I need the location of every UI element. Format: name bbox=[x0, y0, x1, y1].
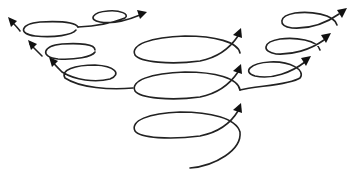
arrowhead-icon bbox=[233, 103, 242, 113]
arrow-left-2 bbox=[28, 40, 95, 59]
arrowhead-icon bbox=[137, 10, 147, 19]
arrow-left-3 bbox=[49, 57, 133, 89]
arrow-left-1 bbox=[8, 17, 78, 37]
arrow-right-1 bbox=[282, 8, 347, 28]
curly-arrows-diagram bbox=[0, 0, 355, 176]
arrowhead-icon bbox=[337, 8, 347, 18]
arrowhead-icon bbox=[233, 28, 242, 38]
arrow-center-3 bbox=[134, 103, 242, 168]
arrowhead-icon bbox=[28, 40, 37, 50]
arrow-top-right-small bbox=[78, 10, 147, 27]
arrowhead-icon bbox=[233, 64, 242, 74]
arrow-right-2 bbox=[266, 33, 331, 54]
arrow-center-2 bbox=[134, 64, 242, 99]
arrow-right-3 bbox=[240, 56, 311, 90]
arrow-center-1 bbox=[134, 28, 242, 63]
